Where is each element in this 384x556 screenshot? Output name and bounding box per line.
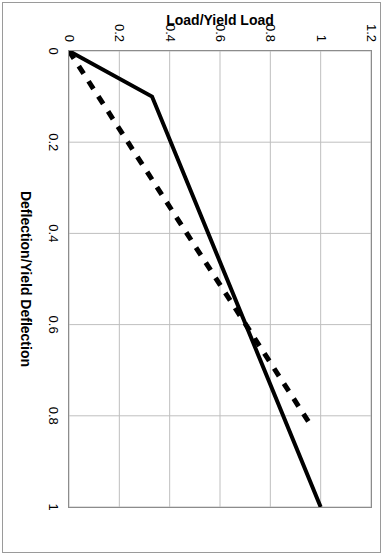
y-tick-label: 1.2 [365, 24, 378, 42]
x-tick-label: 0.4 [47, 224, 60, 242]
chart-figure: 00.20.40.60.81 00.20.40.60.811.2 Deflect… [0, 0, 384, 556]
gridlines [69, 51, 371, 507]
series-solid-curve [69, 51, 321, 507]
x-tick-label: 0 [47, 47, 60, 54]
x-axis-title: Deflection/Yield Deflection [19, 191, 33, 367]
y-axis-title: Load/Yield Load [166, 13, 274, 27]
y-tick-label: 0 [63, 35, 76, 42]
x-tick-label: 1 [47, 503, 60, 510]
y-tick-label: 0.2 [113, 24, 126, 42]
chart-area: 00.20.40.60.81 00.20.40.60.811.2 Deflect… [6, 8, 378, 548]
y-tick-label: 1 [314, 35, 327, 42]
series-dashed-curve [69, 51, 311, 425]
data-series-layer [69, 51, 321, 507]
x-tick-label: 0.6 [47, 316, 60, 334]
x-tick-label: 0.8 [47, 407, 60, 425]
plot-canvas [69, 51, 371, 507]
plot-frame [68, 50, 372, 508]
x-tick-label: 0.2 [47, 133, 60, 151]
rotated-chart-stage: 00.20.40.60.81 00.20.40.60.811.2 Deflect… [6, 8, 378, 548]
